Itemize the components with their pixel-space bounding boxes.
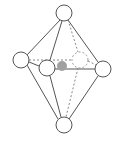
edge-back-bottom [66,68,78,117]
edge-bottom-front [50,76,61,117]
edge-top-back [68,20,78,52]
edge-top-front [50,21,62,60]
edge-left-front [29,62,39,66]
ligand-bottom [56,117,72,133]
ligand-left [13,52,29,68]
edge-bottom-right [69,76,98,119]
ligand-front [39,60,55,76]
ligand-right [95,61,111,77]
edge-top-left [27,20,60,55]
central-atom [57,61,67,71]
octahedral-diagram [0,0,119,141]
ligand-top [56,5,72,21]
edge-top-right [68,20,98,62]
edge-back-right [88,61,96,65]
ligand-back-hidden [72,52,88,68]
